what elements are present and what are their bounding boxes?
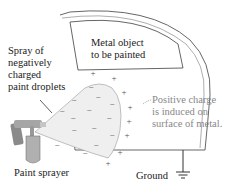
spray-label-line: negatively: [8, 57, 65, 69]
paint-sprayer-label: Paint sprayer: [14, 167, 69, 179]
negative-charge: −: [86, 105, 91, 115]
positive-charge: +: [121, 87, 126, 97]
paint-sprayer-icon: [10, 120, 46, 163]
positive-charge-label: Positive charge is induced on surface of…: [152, 94, 222, 130]
negative-charge: −: [70, 113, 75, 123]
negative-charge: −: [82, 148, 87, 158]
spray-pointer: [40, 100, 52, 113]
positive-label-line: is induced on: [152, 106, 222, 118]
metal-label-line: Metal object: [91, 37, 145, 49]
negative-charge: −: [109, 99, 114, 109]
positive-charge: +: [127, 102, 132, 112]
diagram: −−−−−−−−−−−−−−++++++++ Spray of negative…: [0, 0, 226, 186]
negative-charge: −: [71, 125, 76, 135]
positive-pointer: [143, 100, 152, 104]
positive-charge: +: [126, 116, 131, 126]
positive-charge: +: [90, 68, 95, 78]
negative-charge: −: [71, 95, 76, 105]
negative-charge: −: [88, 82, 93, 92]
spray-label: Spray of negatively charged paint drople…: [8, 45, 65, 93]
positive-label-line: surface of metal.: [152, 118, 222, 130]
negative-charge: −: [106, 113, 111, 123]
positive-label-line: Positive charge: [152, 94, 222, 106]
diagram-drawing: −−−−−−−−−−−−−−++++++++: [0, 0, 226, 186]
negative-charge: −: [109, 130, 114, 140]
negative-charge: −: [93, 140, 98, 150]
positive-charge: +: [124, 130, 129, 140]
negative-charge: −: [59, 106, 64, 116]
spray-label-line: charged: [8, 69, 65, 81]
metal-object-label: Metal object to be painted: [91, 37, 145, 61]
ground-label: Ground: [136, 170, 168, 182]
spray-label-line: paint droplets: [8, 81, 65, 93]
negative-charge: −: [54, 140, 59, 150]
negative-charge: −: [95, 92, 100, 102]
positive-charge: +: [111, 73, 116, 83]
ground-symbol: [176, 172, 190, 178]
negative-charge: −: [91, 123, 96, 133]
spray-label-line: Spray of: [8, 45, 65, 57]
metal-label-line: to be painted: [91, 49, 145, 61]
positive-charge: +: [105, 158, 110, 168]
positive-charge: +: [117, 147, 122, 157]
